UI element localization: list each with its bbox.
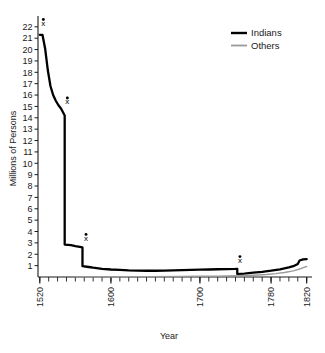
annotation-x-marker: x: [41, 19, 45, 28]
y-axis-tick-label: 13: [22, 124, 32, 134]
x-axis-tick-label: 1600: [106, 287, 116, 307]
y-axis-tick-label: 18: [22, 68, 32, 78]
y-axis-tick-label: 11: [23, 147, 32, 157]
y-axis-tick-label: 14: [22, 113, 32, 123]
annotation-x-marker: x: [84, 234, 88, 243]
y-axis-tick-label: 4: [27, 227, 32, 237]
x-axis-title: Year: [160, 331, 178, 341]
y-axis-tick-label: 21: [22, 33, 32, 43]
y-axis-tick-label: 3: [27, 238, 32, 248]
y-axis-tick-label: 1: [27, 261, 32, 271]
population-decline-line-chart: 1234567891011121314151617181920212215201…: [0, 0, 325, 353]
series-line-others: [75, 267, 306, 277]
y-axis-tick-label: 7: [27, 193, 32, 203]
y-axis-tick-label: 19: [22, 56, 32, 66]
y-axis-tick-label: 10: [22, 159, 32, 169]
x-axis-tick-label: 1820: [302, 287, 312, 307]
y-axis-tick-label: 2: [27, 250, 32, 260]
x-axis-tick-label: 1700: [195, 287, 205, 307]
y-axis-tick-label: 9: [27, 170, 32, 180]
legend-label-others: Others: [251, 40, 280, 51]
x-axis-tick-label: 1780: [266, 287, 276, 307]
legend-label-indians: Indians: [251, 27, 282, 38]
y-axis-tick-label: 22: [22, 22, 32, 32]
x-axis-tick-label: 1520: [35, 287, 45, 307]
y-axis-tick-label: 15: [22, 102, 32, 112]
y-axis-tick-label: 16: [22, 90, 32, 100]
y-axis-tick-label: 20: [22, 45, 32, 55]
y-axis-tick-label: 6: [27, 204, 32, 214]
y-axis-tick-label: 8: [27, 181, 32, 191]
y-axis-tick-label: 5: [27, 215, 32, 225]
y-axis-tick-label: 17: [22, 79, 32, 89]
series-line-indians: [40, 35, 307, 274]
annotation-x-marker: x: [238, 256, 242, 265]
annotation-x-marker: x: [65, 97, 69, 106]
y-axis-title: Millions of Persons: [8, 110, 18, 186]
chart-container: 1234567891011121314151617181920212215201…: [0, 0, 325, 353]
y-axis-tick-label: 12: [22, 136, 32, 146]
